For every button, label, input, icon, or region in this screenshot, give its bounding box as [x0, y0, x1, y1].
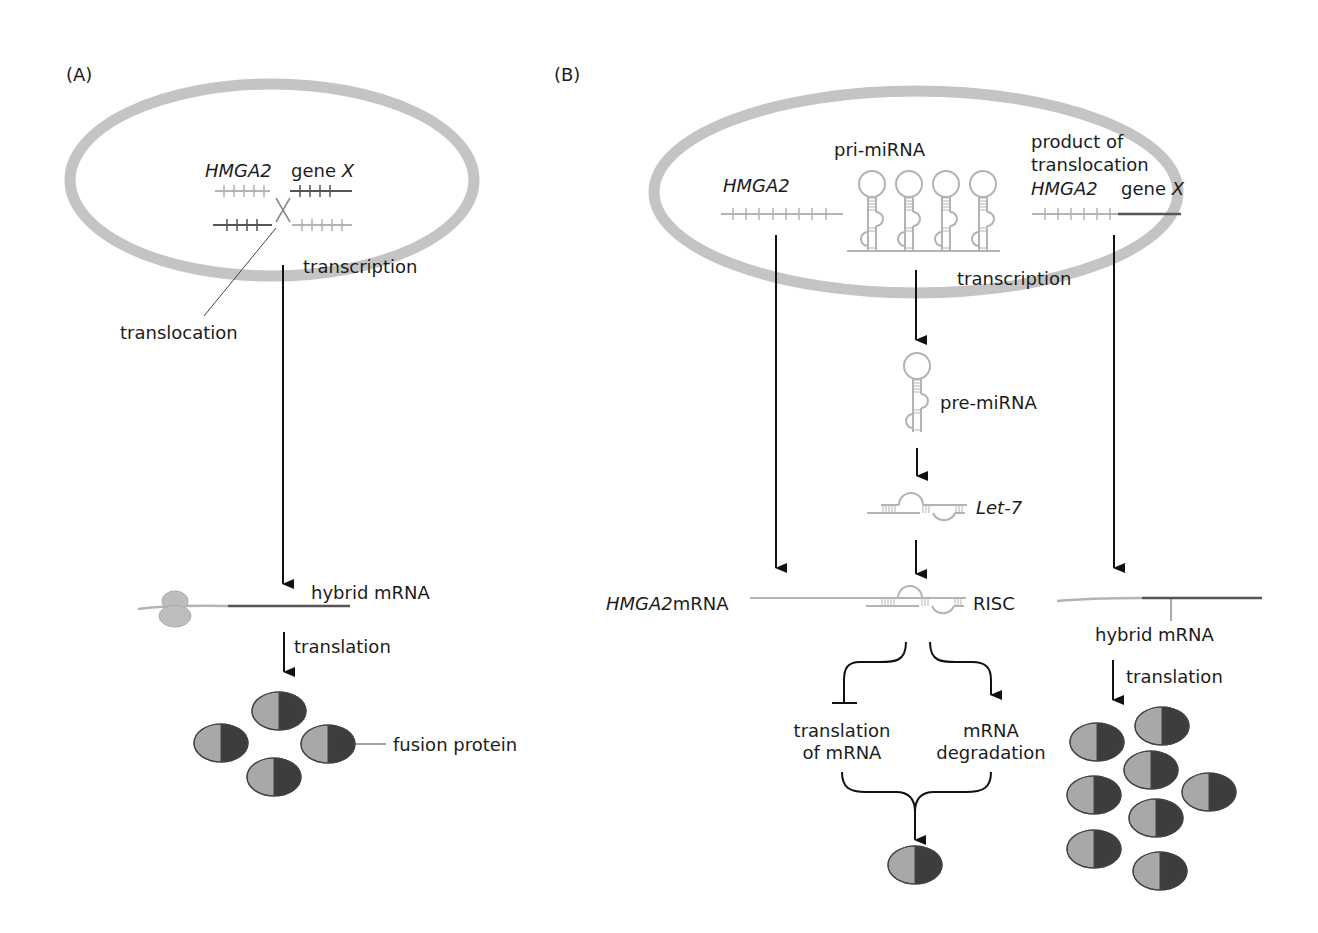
outcome-right-line2: degradation: [928, 742, 1054, 764]
panel-a-nucleus: [70, 84, 474, 276]
mrna-suffix: mRNA: [673, 593, 729, 614]
panel-b-hybrid-mrna: [1057, 598, 1262, 621]
product-of-label: product of: [1031, 131, 1123, 153]
panel-b-hybrid-mrna-label: hybrid mRNA: [1095, 624, 1214, 646]
panel-b-let7-duplex: [867, 493, 967, 520]
pre-mirna-label: pre-miRNA: [940, 392, 1037, 414]
panel-a-translocation-strands: [204, 185, 352, 316]
translocation-label: translocation: [1031, 154, 1149, 176]
mrna-degradation-label: mRNA degradation: [928, 720, 1054, 764]
panel-b-fusion-proteins: [1067, 707, 1236, 890]
panel-a-label: (A): [66, 64, 92, 86]
product-gene-x-label: gene X: [1121, 178, 1184, 200]
panel-a-fusion-protein-label: fusion protein: [393, 734, 517, 756]
gene-word: gene: [1121, 178, 1172, 199]
translation-inhibition-label: translation of mRNA: [780, 720, 904, 764]
panel-b-hmga2-gene: [721, 208, 843, 220]
outcome-left-line1: translation: [780, 720, 904, 742]
panel-b-translation-label: translation: [1126, 666, 1223, 688]
panel-a-translocation-label: translocation: [120, 322, 238, 344]
panel-a-fusion-proteins: [194, 692, 386, 796]
outcome-right-line1: mRNA: [928, 720, 1054, 742]
panel-b-label: (B): [554, 64, 580, 86]
panel-b-translocation-product-gene: [1032, 208, 1181, 220]
panel-a-gene-x-label: gene X: [291, 160, 354, 182]
gene-word: gene: [291, 160, 342, 181]
hmga2-mrna-label: HMGA2mRNA: [606, 593, 729, 615]
panel-b-hmga2-label: HMGA2: [723, 175, 790, 197]
gene-var: X: [342, 160, 354, 181]
panel-a-hybrid-mrna-label: hybrid mRNA: [311, 582, 430, 604]
risc-label: RISC: [973, 593, 1015, 615]
pri-mirna-label: pri-miRNA: [834, 139, 925, 161]
panel-b-hmga2-mrna-risc: [750, 586, 966, 613]
panel-a-transcription-label: transcription: [303, 256, 417, 278]
panel-b-reduced-protein: [888, 846, 942, 884]
product-hmga2-label: HMGA2: [1031, 178, 1098, 200]
hmga2-italic: HMGA2: [606, 593, 673, 614]
outcome-left-line2: of mRNA: [780, 742, 904, 764]
panel-b-pri-mirna: [847, 171, 1000, 251]
let7-label: Let-7: [976, 497, 1022, 519]
panel-a-hmga2-label: HMGA2: [205, 160, 272, 182]
gene-var: X: [1172, 178, 1184, 199]
panel-b-pre-mirna: [904, 353, 930, 432]
panel-b-transcription-label: transcription: [957, 268, 1071, 290]
panel-a-translation-label: translation: [294, 636, 391, 658]
